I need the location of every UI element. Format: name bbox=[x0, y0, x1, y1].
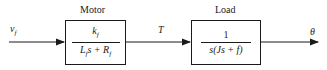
motor-transfer-function: kf Lfs + Rf bbox=[66, 21, 125, 64]
diagram-connections bbox=[0, 0, 327, 70]
load-transfer-function: 1 s(Js + f) bbox=[192, 21, 260, 64]
fraction-bar bbox=[201, 42, 251, 43]
load-denominator: s(Js + f) bbox=[209, 44, 242, 56]
motor-numerator: kf bbox=[90, 25, 100, 41]
fraction-bar bbox=[72, 42, 120, 43]
input-signal-label: vf bbox=[10, 23, 16, 37]
load-block: 1 s(Js + f) bbox=[191, 20, 261, 65]
motor-denominator: Lfs + Rf bbox=[80, 44, 111, 60]
motor-title: Motor bbox=[80, 4, 105, 15]
motor-block: kf Lfs + Rf bbox=[65, 20, 126, 65]
load-numerator: 1 bbox=[222, 29, 231, 41]
torque-signal-label: T bbox=[158, 24, 164, 35]
load-title: Load bbox=[215, 4, 236, 15]
output-signal-label: θ bbox=[310, 26, 315, 37]
